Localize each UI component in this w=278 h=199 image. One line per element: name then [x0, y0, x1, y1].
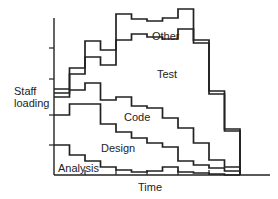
series-label-other: Other — [152, 30, 180, 42]
y-axis-label-line1: Staff — [14, 85, 36, 97]
series-label-code: Code — [124, 111, 150, 123]
y-axis-label-line2: loading — [14, 97, 49, 109]
series-label-design: Design — [101, 142, 135, 154]
x-axis-label: Time — [138, 181, 162, 193]
series-label-analysis: Analysis — [58, 162, 99, 174]
series-label-test: Test — [157, 68, 177, 80]
series-lines — [54, 9, 240, 175]
series-line-test — [54, 29, 240, 175]
